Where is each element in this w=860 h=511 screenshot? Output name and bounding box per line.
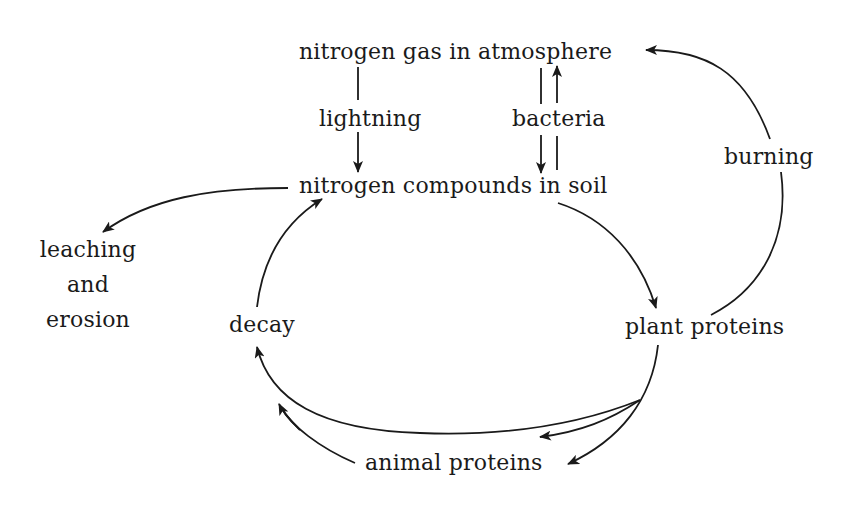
edge-plant-to-animal (568, 345, 658, 464)
edge-soil-to-leaching (103, 188, 288, 232)
leaching-line-1: leaching (28, 232, 148, 267)
leaching-line-2: and (28, 267, 148, 302)
edge-label-burning: burning (724, 146, 814, 168)
edge-soil-to-plant (558, 203, 656, 308)
node-atmosphere: nitrogen gas in atmosphere (299, 41, 612, 63)
edge-plant-to-decay (257, 347, 640, 434)
nitrogen-cycle-diagram: nitrogen gas in atmosphere lightning bac… (0, 0, 860, 511)
edge-label-bacteria: bacteria (512, 108, 606, 130)
edge-decay-to-soil (257, 199, 322, 307)
edge-burning-upper (646, 50, 770, 139)
node-animal-proteins: animal proteins (365, 452, 543, 474)
node-decay: decay (229, 314, 295, 336)
edge-label-lightning: lightning (319, 108, 421, 130)
leaching-line-3: erosion (28, 302, 148, 337)
node-plant-proteins: plant proteins (625, 316, 784, 338)
edge-animal-to-decay-arrow (279, 404, 300, 430)
edge-burning-lower (711, 172, 783, 315)
node-leaching-erosion: leaching and erosion (28, 232, 148, 337)
node-soil: nitrogen compounds in soil (299, 175, 608, 197)
